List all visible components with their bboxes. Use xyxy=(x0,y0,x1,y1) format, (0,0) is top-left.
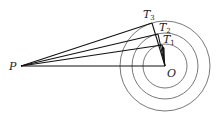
tangent-circles-diagram: P O T3 T2 T1 xyxy=(0,0,223,120)
segment-PT2 xyxy=(21,34,158,66)
tangent-segments xyxy=(21,23,165,66)
segment-PT1 xyxy=(21,45,162,66)
label-T1: T1 xyxy=(163,33,175,47)
label-P: P xyxy=(8,60,17,73)
label-T3: T3 xyxy=(143,8,155,22)
label-O: O xyxy=(167,67,176,80)
